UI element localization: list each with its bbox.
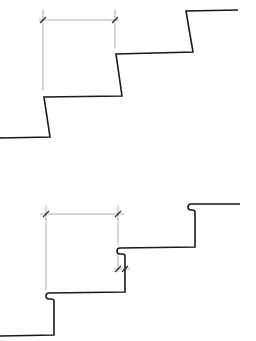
bottom-stair-profile-with-nosings — [0, 204, 240, 336]
top-stair-profile — [0, 10, 238, 138]
top-stair-diagram — [0, 10, 238, 138]
stair-diagram-figure — [0, 0, 256, 341]
bottom-stair-diagram — [0, 204, 240, 336]
stair-diagrams-svg — [0, 0, 256, 341]
